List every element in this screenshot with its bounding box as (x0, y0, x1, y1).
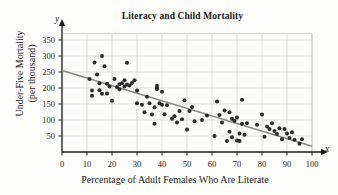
scatter-point (173, 114, 177, 118)
scatter-point (90, 94, 94, 98)
scatter-point (125, 61, 129, 65)
scatter-point (228, 130, 232, 134)
x-tick-label: 30 (127, 159, 147, 169)
x-tick-label: 10 (77, 159, 97, 169)
scatter-point (160, 103, 164, 107)
scatter-point (193, 119, 197, 123)
x-tick-label: 90 (277, 159, 297, 169)
scatter-point (233, 119, 237, 123)
scatter-point (100, 92, 104, 96)
scatter-point (113, 77, 117, 81)
scatter-point (183, 98, 187, 102)
scatter-point (228, 110, 232, 114)
scatter-point (135, 101, 139, 105)
scatter-point (175, 121, 179, 125)
scatter-point (300, 137, 304, 141)
x-tick-label: 50 (177, 159, 197, 169)
scatter-point (288, 136, 292, 140)
x-tick-label: 0 (52, 159, 72, 169)
scatter-point (88, 77, 92, 81)
scatter-point (93, 60, 97, 64)
scatter-point (255, 123, 259, 127)
scatter-point (220, 121, 224, 125)
chart-screenshot: Literacy and Child Mortality y x Under-F… (0, 0, 338, 195)
x-tick-label: 60 (202, 159, 222, 169)
x-tick-label: 100 (302, 159, 322, 169)
scatter-point (205, 114, 209, 118)
scatter-point (238, 131, 242, 135)
scatter-point (123, 78, 127, 82)
scatter-point (278, 126, 282, 130)
scatter-point (190, 105, 194, 109)
x-tick-label: 40 (152, 159, 172, 169)
scatter-point (188, 109, 192, 113)
scatter-point (230, 135, 234, 139)
scatter-point (218, 113, 222, 117)
x-tick-label: 20 (102, 159, 122, 169)
scatter-point (118, 87, 122, 91)
tick-marks (59, 40, 313, 156)
scatter-point (135, 89, 139, 93)
scatter-point (245, 121, 249, 125)
scatter-point (293, 138, 297, 142)
scatter-point (225, 139, 229, 143)
scatter-point (280, 137, 284, 141)
scatter-point (213, 134, 217, 138)
scatter-point (95, 73, 99, 77)
scatter-point (153, 105, 157, 109)
scatter-point (273, 129, 277, 133)
y-tick-label: 50 (29, 131, 55, 141)
y-tick-label: 150 (29, 99, 55, 109)
scatter-point (165, 103, 169, 107)
scatter-point (100, 54, 104, 58)
scatter-point (283, 127, 287, 131)
scatter-point (148, 101, 152, 105)
scatter-point (275, 132, 279, 136)
scatter-point (298, 142, 302, 146)
y-tick-label: 350 (29, 35, 55, 45)
y-tick-label: 200 (29, 83, 55, 93)
y-axis-arrowhead (59, 19, 65, 26)
scatter-point (185, 128, 189, 132)
y-tick-label: 100 (29, 115, 55, 125)
scatter-point (178, 109, 182, 113)
scatter-point (240, 98, 244, 102)
scatter-point (285, 131, 289, 135)
scatter-point (235, 115, 239, 119)
scatter-point (163, 112, 167, 116)
scatter-point (105, 91, 109, 95)
scatter-point (133, 78, 137, 82)
scatter-point (103, 64, 107, 68)
scatter-point (240, 122, 244, 126)
scatter-point (238, 139, 242, 143)
x-tick-label: 70 (227, 159, 247, 169)
scatter-point (98, 88, 102, 92)
scatter-point (200, 118, 204, 122)
scatter-point (260, 113, 264, 117)
scatter-point (270, 121, 274, 125)
scatter-point (160, 90, 164, 94)
scatter-point (150, 113, 154, 117)
scatter-point (263, 135, 267, 139)
scatter-point (223, 108, 227, 112)
scatter-point (143, 110, 147, 114)
x-axis-arrowhead (321, 149, 328, 155)
scatter-point (268, 127, 272, 131)
y-tick-label: 250 (29, 67, 55, 77)
scatter-point (215, 99, 219, 103)
scatter-point (98, 81, 102, 85)
y-tick-label: 300 (29, 51, 55, 61)
scatter-point (108, 84, 112, 88)
scatter-point (180, 117, 184, 121)
scatter-point (140, 103, 144, 107)
scatter-point (90, 89, 94, 93)
scatter-point (145, 95, 149, 99)
scatter-point (243, 133, 247, 137)
scatter-point (155, 87, 159, 91)
scatter-point (110, 99, 114, 103)
data-points (88, 54, 305, 146)
x-tick-label: 80 (252, 159, 272, 169)
scatter-point (290, 130, 294, 134)
scatter-point (153, 122, 157, 126)
